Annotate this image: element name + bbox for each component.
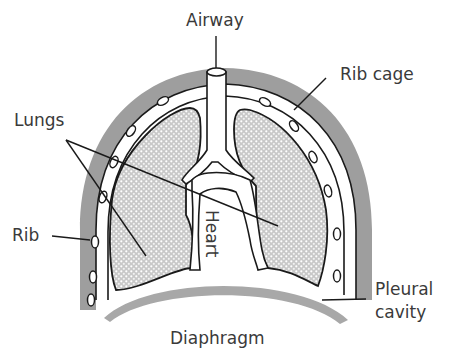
rib-icon bbox=[334, 228, 341, 240]
label-heart: Heart bbox=[202, 210, 222, 258]
rib-icon bbox=[92, 236, 99, 248]
rib-icon bbox=[88, 294, 95, 306]
rib-icon bbox=[334, 270, 341, 282]
rib-icon bbox=[90, 271, 97, 283]
label-rib-cage: Rib cage bbox=[340, 64, 414, 84]
diaphragm bbox=[104, 286, 348, 324]
label-airway: Airway bbox=[186, 10, 244, 30]
label-lungs: Lungs bbox=[14, 110, 65, 130]
pleural-cavity-leader bbox=[322, 299, 366, 300]
rib-icon bbox=[258, 96, 272, 108]
label-pleural-cavity-line1: Pleural bbox=[375, 279, 433, 299]
label-pleural-cavity-line2: cavity bbox=[375, 302, 426, 322]
label-diaphragm: Diaphragm bbox=[170, 328, 265, 348]
thorax-diagram: Airway Rib cage Lungs Rib Heart Pleural … bbox=[0, 0, 452, 360]
rib-icon bbox=[288, 119, 301, 133]
rib-icon bbox=[323, 184, 333, 197]
label-rib: Rib bbox=[12, 225, 39, 245]
